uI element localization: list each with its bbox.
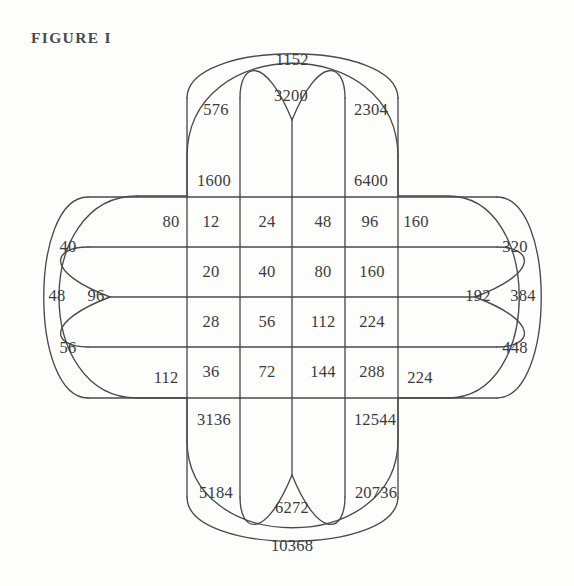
figure-root: FIGURE I — [0, 0, 574, 586]
label-core-r3c4: 224 — [359, 314, 384, 331]
label-core-r3c2: 56 — [259, 314, 276, 331]
label-left-96: 96 — [88, 288, 105, 305]
label-core-r1c3: 48 — [315, 214, 332, 231]
label-bottom-10368: 10368 — [271, 538, 313, 555]
label-right-160: 160 — [403, 214, 428, 231]
label-core-r2c3: 80 — [315, 264, 332, 281]
label-core-r1c4: 96 — [362, 214, 379, 231]
label-right-384: 384 — [510, 288, 535, 305]
label-bottom-3136: 3136 — [197, 412, 231, 429]
label-top-6400: 6400 — [354, 173, 388, 190]
label-core-r3c3: 112 — [311, 314, 336, 331]
label-core-r2c4: 160 — [359, 264, 384, 281]
label-core-r4c3: 144 — [310, 364, 335, 381]
outer-shell-outline — [59, 63, 519, 528]
label-bottom-12544: 12544 — [354, 412, 396, 429]
label-top-1600: 1600 — [197, 173, 231, 190]
label-core-r4c1: 36 — [203, 364, 220, 381]
label-top-576: 576 — [203, 102, 228, 119]
label-right-448: 448 — [502, 340, 527, 357]
label-left-48: 48 — [49, 288, 66, 305]
label-core-r4c4: 288 — [359, 364, 384, 381]
label-bottom-20736: 20736 — [355, 485, 397, 502]
label-right-224: 224 — [407, 370, 432, 387]
label-top-2304: 2304 — [354, 102, 388, 119]
label-core-r2c2: 40 — [259, 264, 276, 281]
label-bottom-5184: 5184 — [199, 485, 233, 502]
label-left-80: 80 — [163, 214, 180, 231]
label-bottom-6272: 6272 — [275, 500, 309, 517]
label-core-r3c1: 28 — [203, 314, 220, 331]
label-core-r1c2: 24 — [259, 214, 276, 231]
label-right-320: 320 — [502, 239, 527, 256]
label-right-192: 192 — [465, 288, 490, 305]
label-core-r4c2: 72 — [259, 364, 276, 381]
label-top-1152: 1152 — [275, 52, 308, 69]
label-left-112: 112 — [154, 370, 179, 387]
label-left-40: 40 — [60, 239, 77, 256]
label-top-3200: 3200 — [274, 88, 308, 105]
label-core-r1c1: 12 — [203, 214, 220, 231]
label-core-r2c1: 20 — [203, 264, 220, 281]
label-left-56: 56 — [60, 340, 77, 357]
